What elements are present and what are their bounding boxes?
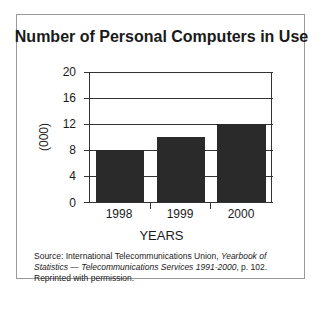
y-tick-label: 16 [54,91,76,105]
x-axis-label: YEARS [0,228,323,243]
y-tick-label: 4 [54,169,76,183]
chart-title: Number of Personal Computers in Use [0,28,323,46]
x-tick-label: 1999 [155,207,205,221]
x-tick-label: 1998 [94,207,144,221]
y-tick-label: 12 [54,117,76,131]
bar-2000 [217,124,266,202]
source-note: Source: International Telecommunications… [34,251,284,284]
x-tick [150,203,151,209]
bar-1998 [96,150,144,202]
source-prefix: Source: International Telecommunications… [34,251,221,261]
y-tick-label: 0 [54,196,76,210]
y-tick-label: 20 [54,65,76,79]
y-tick-label: 8 [54,143,76,157]
bar-1999 [157,137,205,202]
gridline [84,98,273,99]
x-tick [210,203,211,209]
gridline [84,72,273,73]
y-axis-label: (000) [37,117,51,157]
x-axis-line [84,202,273,203]
x-tick-label: 2000 [216,207,266,221]
plot-area [89,72,272,203]
